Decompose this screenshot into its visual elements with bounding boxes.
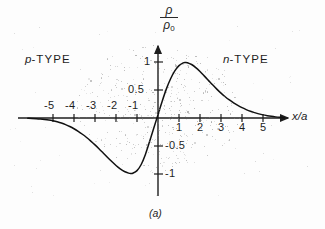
figure-caption: (a) [149,208,162,219]
x-tick-label--1: -1 [128,100,138,111]
x-tick-label--5: -5 [44,100,54,111]
y-tick-label--0.5: -0.5 [165,140,185,151]
x-tick-label--4: -4 [65,100,75,111]
y-tick-label-1: 1 [144,56,150,67]
p-type-label: p-TYPE [25,54,71,66]
x-tick-label-4: 4 [239,122,245,133]
x-tick-label-5: 5 [260,122,266,133]
x-tick-label--2: -2 [107,100,117,111]
y-axis-label: ρ ρ0 [152,4,186,35]
p-type-text: -TYPE [31,53,70,65]
x-axis [18,114,288,122]
n-type-text: -TYPE [229,53,268,65]
y-tick-label-0.5: 0.5 [128,84,144,95]
y-axis-label-subscript: 0 [170,24,174,33]
x-axis-label: x/a [292,111,307,123]
x-tick-label-3: 3 [218,122,224,133]
y-tick-label--1: -1 [165,168,175,179]
x-tick-label-2: 2 [197,122,203,133]
x-tick-label-1: 1 [176,122,182,133]
figure-container: ρ ρ0 x/a -5 -4 -3 -2 -1 1 2 3 4 5 1 0.5 … [0,0,325,229]
x-tick-label--3: -3 [86,100,96,111]
y-axis-label-denominator: ρ0 [152,18,186,35]
n-type-label: n-TYPE [223,54,269,66]
y-axis-label-numerator: ρ [152,4,186,17]
